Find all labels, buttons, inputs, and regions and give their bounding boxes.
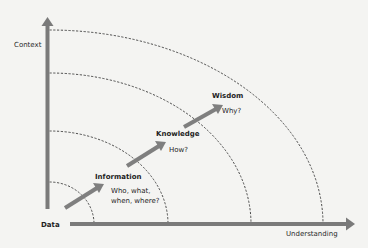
wisdom-question: Why?	[222, 107, 241, 116]
wisdom-label: Wisdom	[212, 92, 243, 101]
arrow-data-to-information-icon	[65, 183, 104, 208]
data-label: Data	[41, 221, 60, 230]
knowledge-question: How?	[169, 146, 188, 155]
arrow-information-to-knowledge-icon	[127, 141, 166, 166]
context-axis	[42, 17, 54, 209]
context-axis-label: Context	[14, 41, 41, 50]
understanding-axis	[70, 218, 355, 231]
dikw-diagram: Context Data Understanding Information W…	[0, 0, 368, 248]
diagram-canvas	[0, 0, 368, 248]
information-question: Who, what, when, where?	[111, 186, 160, 206]
information-label: Information	[95, 173, 141, 182]
knowledge-label: Knowledge	[156, 130, 200, 139]
axis-arrowhead-up-icon	[42, 17, 54, 26]
understanding-axis-label: Understanding	[286, 230, 338, 239]
axis-arrowhead-right-icon	[346, 218, 355, 231]
